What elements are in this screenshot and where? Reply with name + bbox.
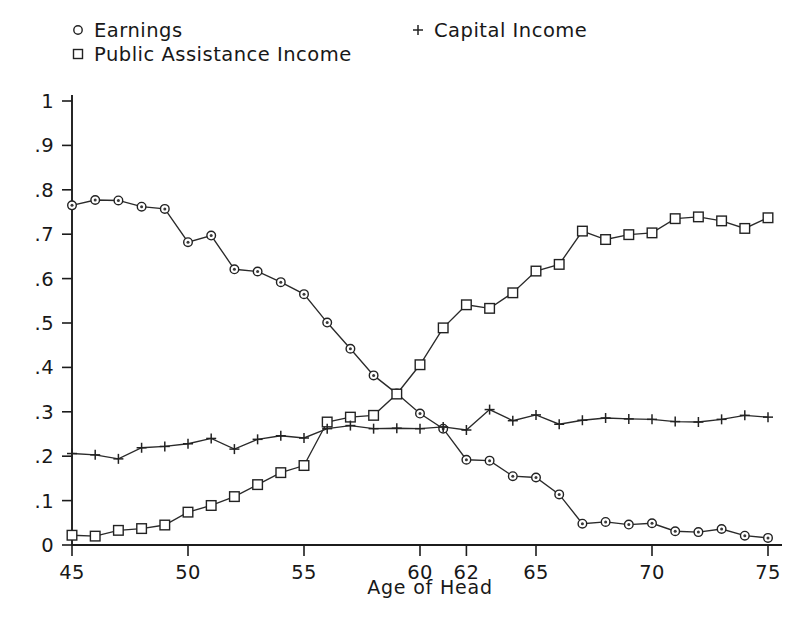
data-point-center (743, 534, 746, 537)
data-point-marker (763, 213, 773, 223)
data-point-center (256, 270, 259, 273)
data-point-marker (670, 417, 680, 427)
x-tick-label: 45 (59, 561, 85, 584)
y-tick-label: .5 (35, 312, 54, 335)
data-point-center (581, 522, 584, 525)
data-point-marker (183, 439, 193, 449)
data-point-center (465, 458, 468, 461)
data-point-center (604, 520, 607, 523)
data-point-marker (392, 423, 402, 433)
data-point-marker (90, 531, 100, 541)
data-point-marker (206, 433, 216, 443)
y-tick-label: .2 (35, 445, 54, 468)
data-point-marker (624, 414, 634, 424)
legend-marker-public-assistance-income (74, 50, 83, 59)
data-point-marker (392, 389, 402, 399)
data-point-marker (160, 520, 170, 530)
line-chart-svg: Earnings Public Assistance Income Capita… (0, 0, 804, 632)
data-point-center (187, 241, 190, 244)
data-point-marker (717, 216, 727, 226)
series-public-assistance-income (67, 212, 773, 541)
data-point-marker (346, 412, 356, 422)
data-point-marker (554, 260, 564, 270)
data-point-center (511, 475, 514, 478)
legend-marker-capital-income (413, 25, 423, 35)
data-point-center (94, 199, 97, 202)
data-point-center (627, 523, 630, 526)
data-point-marker (647, 228, 657, 238)
data-point-marker (67, 449, 77, 459)
data-point-center (372, 374, 375, 377)
data-point-marker (694, 212, 704, 222)
data-point-marker (369, 411, 379, 421)
x-tick-label: 75 (755, 561, 781, 584)
x-tick-label: 50 (175, 561, 201, 584)
data-point-marker (183, 507, 193, 517)
data-point-marker (113, 454, 123, 464)
data-point-marker (229, 444, 239, 454)
data-point-center (163, 207, 166, 210)
data-point-marker (624, 230, 634, 240)
series-line-path (72, 217, 768, 536)
data-point-center (210, 234, 213, 237)
data-point-marker (740, 410, 750, 420)
y-tick-label: .6 (35, 268, 54, 291)
data-point-center (488, 459, 491, 462)
x-axis-title: Age of Head (367, 576, 493, 598)
data-point-marker (531, 410, 541, 420)
y-tick-label: .7 (35, 223, 54, 246)
data-point-marker (647, 414, 657, 424)
data-point-center (767, 536, 770, 539)
data-point-marker (763, 412, 773, 422)
data-point-center (233, 268, 236, 271)
data-point-center (651, 522, 654, 525)
y-tick-label: .8 (35, 179, 54, 202)
data-point-marker (601, 413, 611, 423)
data-point-marker (508, 288, 518, 298)
data-point-marker (485, 304, 495, 314)
data-point-marker (554, 419, 564, 429)
data-point-center (326, 321, 329, 324)
x-tick-label: 70 (639, 561, 665, 584)
data-point-center (558, 493, 561, 496)
legend-marker-earnings (74, 26, 82, 34)
legend: Earnings Public Assistance Income Capita… (74, 19, 588, 66)
data-point-center (697, 531, 700, 534)
data-point-marker (462, 300, 472, 310)
data-point-marker (137, 443, 147, 453)
data-point-center (279, 281, 282, 284)
data-point-marker (299, 433, 309, 443)
data-point-marker (438, 323, 448, 333)
data-point-marker (114, 526, 124, 536)
data-point-marker (531, 266, 541, 276)
data-point-marker (601, 235, 611, 245)
legend-label-public-assistance-income: Public Assistance Income (94, 43, 352, 66)
chart-container: Earnings Public Assistance Income Capita… (0, 0, 804, 632)
data-point-marker (276, 431, 286, 441)
data-point-center (419, 412, 422, 415)
data-point-marker (206, 501, 216, 511)
data-point-marker (693, 417, 703, 427)
data-point-marker (717, 414, 727, 424)
data-point-center (535, 476, 538, 479)
data-point-center (720, 528, 723, 531)
data-point-marker (253, 480, 263, 490)
data-point-marker (137, 524, 147, 534)
axes (72, 95, 782, 545)
data-point-marker (160, 441, 170, 451)
data-point-center (349, 347, 352, 350)
data-point-marker (230, 492, 240, 502)
data-point-marker (369, 424, 379, 434)
data-point-marker (577, 415, 587, 425)
data-point-marker (299, 461, 309, 471)
series-layer (67, 196, 773, 542)
x-tick-label: 65 (523, 561, 549, 584)
data-point-center (674, 530, 677, 533)
data-point-marker (253, 434, 263, 444)
data-point-marker (67, 530, 77, 540)
data-point-marker (740, 224, 750, 234)
legend-label-capital-income: Capital Income (434, 19, 587, 42)
y-tick-label: .1 (35, 490, 54, 513)
y-tick-label: .4 (35, 356, 54, 379)
x-tick-label: 55 (291, 561, 317, 584)
